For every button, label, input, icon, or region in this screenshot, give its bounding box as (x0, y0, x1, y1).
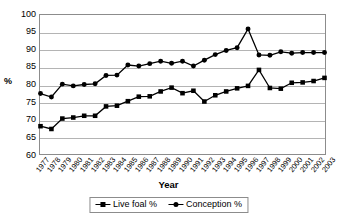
y-tick-label: 60 (10, 151, 36, 160)
data-point-marker (322, 50, 327, 55)
data-point-marker (158, 89, 163, 94)
chart-container: % 1009590858075706560 197719781979198019… (0, 0, 337, 217)
chart-legend: Live foal %Conception % (89, 197, 248, 213)
data-point-marker (246, 84, 251, 89)
data-point-marker (169, 61, 174, 66)
y-tick-label: 80 (10, 80, 36, 89)
data-point-marker (224, 89, 229, 94)
y-axis-tick-labels: 1009590858075706560 (10, 9, 36, 159)
data-point-marker (311, 79, 316, 84)
data-point-marker (38, 91, 43, 96)
legend-entry[interactable]: Live foal % (95, 199, 157, 210)
data-point-marker (213, 93, 218, 98)
data-point-marker (60, 82, 65, 87)
data-point-marker (202, 58, 207, 63)
x-axis-title: Year (0, 179, 337, 190)
y-tick-label: 90 (10, 45, 36, 54)
data-point-marker (104, 73, 109, 78)
data-point-marker (224, 48, 229, 53)
data-point-marker (71, 115, 76, 120)
data-point-marker (191, 88, 196, 93)
data-point-marker (125, 63, 130, 68)
series-lines (40, 15, 325, 154)
data-point-marker (114, 73, 119, 78)
data-point-marker (268, 86, 273, 91)
data-point-marker (82, 82, 87, 87)
data-point-marker (71, 83, 76, 88)
y-tick-label: 95 (10, 27, 36, 36)
data-point-marker (147, 94, 152, 99)
data-point-marker (93, 81, 98, 86)
data-point-marker (279, 86, 284, 91)
data-point-marker (136, 64, 141, 69)
data-point-marker (246, 26, 251, 31)
data-point-marker (289, 51, 294, 56)
data-point-marker (93, 114, 98, 119)
data-point-marker (300, 80, 305, 85)
data-point-marker (289, 80, 294, 85)
data-point-marker (311, 50, 316, 55)
legend-marker-icon (95, 200, 110, 209)
legend-entry[interactable]: Conception % (168, 199, 242, 210)
data-point-marker (115, 103, 120, 108)
data-point-marker (256, 53, 261, 58)
data-point-marker (137, 94, 142, 99)
data-point-marker (235, 86, 240, 91)
legend-label: Conception % (186, 199, 242, 210)
plot-area (39, 14, 326, 155)
data-point-marker (180, 91, 185, 96)
y-tick-label: 75 (10, 98, 36, 107)
data-point-marker (267, 53, 272, 58)
data-point-marker (180, 59, 185, 64)
data-point-marker (82, 114, 87, 119)
data-point-marker (104, 104, 109, 109)
data-point-marker (278, 49, 283, 54)
data-point-marker (49, 95, 54, 100)
data-point-marker (126, 99, 131, 104)
data-point-marker (191, 64, 196, 69)
series-line (40, 70, 324, 129)
legend-marker-icon (168, 200, 183, 209)
data-point-marker (49, 127, 54, 132)
y-tick-label: 65 (10, 133, 36, 142)
data-point-marker (38, 124, 43, 129)
y-tick-label: 100 (10, 10, 36, 19)
data-point-marker (147, 61, 152, 66)
y-tick-label: 85 (10, 62, 36, 71)
y-tick-label: 70 (10, 115, 36, 124)
legend-label: Live foal % (113, 199, 157, 210)
data-point-marker (235, 45, 240, 50)
data-point-marker (60, 116, 65, 121)
data-point-marker (158, 59, 163, 64)
data-point-marker (169, 85, 174, 90)
data-point-marker (257, 68, 262, 73)
data-point-marker (213, 52, 218, 57)
data-point-marker (300, 50, 305, 55)
data-point-marker (202, 99, 207, 104)
data-point-marker (322, 76, 327, 81)
